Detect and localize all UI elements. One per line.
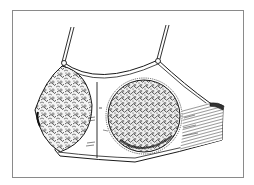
right-cup — [108, 80, 180, 152]
right-strap-ring — [156, 59, 161, 64]
bra-illustration — [0, 0, 254, 185]
illustration-canvas: Vintage engraving-style illustration of … — [0, 0, 254, 185]
left-strap-ring — [62, 61, 67, 66]
